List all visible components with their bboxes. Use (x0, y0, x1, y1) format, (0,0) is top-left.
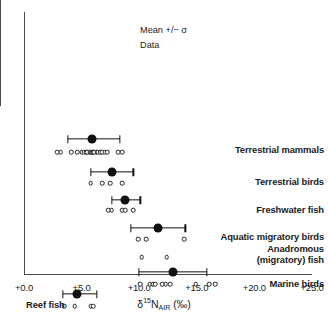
error-bar-cap (90, 168, 91, 176)
data-point (120, 150, 125, 155)
error-bar-cap (207, 268, 208, 276)
y-axis-line (24, 12, 25, 275)
mean-marker (72, 290, 81, 299)
legend-mean-label: Mean +/− σ (140, 25, 187, 35)
data-point (108, 181, 113, 186)
mean-marker (121, 196, 130, 205)
error-bar-cap (63, 290, 64, 298)
mean-marker (153, 224, 162, 233)
error-bar-cap (130, 224, 131, 232)
data-point (100, 181, 105, 186)
error-bar-cap (119, 135, 120, 143)
x-tick-major (0, 100, 1, 106)
series-label: Marine birds (269, 278, 324, 289)
data-point (69, 150, 74, 155)
data-point (213, 282, 218, 287)
error-bar-cap (185, 224, 186, 232)
data-point (182, 237, 187, 242)
data-point (136, 237, 141, 242)
x-axis-title-subscript: AIR (159, 304, 171, 311)
data-point (89, 181, 94, 186)
x-axis-ticks (0, 0, 328, 106)
error-bar-cap (111, 196, 112, 204)
series-label: Reef fish (26, 299, 65, 310)
error-bar-cap (140, 196, 141, 204)
x-axis-title-superscript: 15 (143, 297, 151, 304)
data-point (139, 255, 144, 260)
data-point (193, 282, 198, 287)
data-point (138, 282, 143, 287)
x-axis-title-element: N (151, 298, 159, 310)
data-point (207, 282, 212, 287)
error-bar-cap (139, 268, 140, 276)
x-axis-title-unit: (‰) (173, 298, 191, 310)
data-point (165, 255, 170, 260)
data-point (168, 282, 173, 287)
legend-data-label: Data (140, 40, 159, 50)
data-point (91, 304, 96, 309)
data-point (105, 150, 110, 155)
chart-figure: +0.0+5.0+10.0+15.0+20.0+25.0 δ15NAIR (‰)… (0, 0, 328, 321)
series-label: Anadromous(migratory) fish (257, 243, 324, 265)
data-point (153, 282, 158, 287)
x-tick-label: +20.0 (243, 282, 266, 293)
mean-marker (168, 268, 177, 277)
data-point (109, 208, 114, 213)
series-label: Aquatic migratory birds (221, 231, 324, 242)
data-point (123, 208, 128, 213)
data-point (72, 304, 77, 309)
error-bar-cap (67, 135, 68, 143)
mean-marker (87, 135, 96, 144)
data-point (131, 208, 136, 213)
data-point (120, 181, 125, 186)
series-label: Terrestrial mammals (235, 144, 324, 155)
series-label: Terrestrial birds (255, 176, 324, 187)
x-tick-label: +0.0 (15, 282, 33, 293)
data-point (59, 150, 64, 155)
error-bar-cap (96, 290, 97, 298)
series-label: Freshwater fish (256, 204, 324, 215)
error-bar-cap (133, 168, 134, 176)
data-point (144, 237, 149, 242)
mean-marker (107, 168, 116, 177)
